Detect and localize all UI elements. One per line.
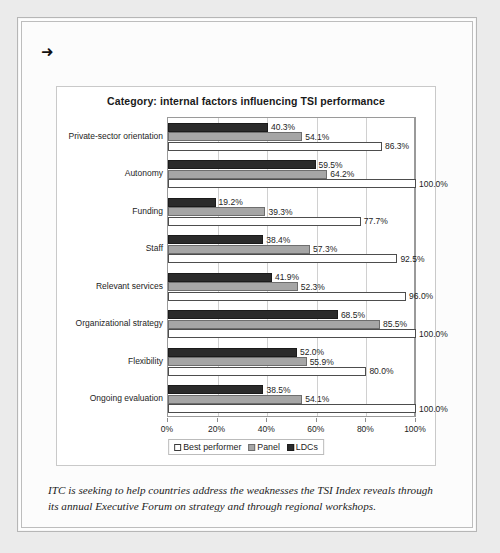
bar-ldcs: [168, 348, 297, 357]
bar-value-label: 100.0%: [419, 330, 448, 339]
gridline: [366, 118, 367, 416]
bar-best: [168, 404, 416, 413]
bar-value-label: 52.3%: [301, 283, 325, 292]
x-tick-mark: [316, 418, 317, 422]
bar-ldcs: [168, 123, 268, 132]
bar-value-label: 85.5%: [383, 320, 407, 329]
x-tick-mark: [217, 418, 218, 422]
category-label: Staff: [146, 243, 163, 253]
bar-ldcs: [168, 273, 272, 282]
axis-right-edge: [414, 118, 415, 416]
legend-swatch-panel: [248, 444, 255, 451]
bar-best: [168, 292, 406, 301]
bar-value-label: 64.2%: [330, 170, 354, 179]
category-label: Organizational strategy: [76, 318, 163, 328]
x-tick-mark: [415, 418, 416, 422]
x-tick-label: 40%: [258, 424, 275, 434]
category-label: Autonomy: [125, 168, 163, 178]
bar-value-label: 54.1%: [305, 133, 329, 142]
x-tick-mark: [365, 418, 366, 422]
legend-entry-ldcs: LDCs: [287, 442, 318, 452]
bar-ldcs: [168, 385, 263, 394]
bar-panel: [168, 207, 265, 216]
bar-panel: [168, 170, 327, 179]
x-tick-label: 100%: [404, 424, 426, 434]
legend-swatch-ldcs: [287, 444, 294, 451]
bar-value-label: 86.3%: [385, 142, 409, 151]
x-tick-label: 60%: [307, 424, 324, 434]
bar-best: [168, 367, 366, 376]
bar-value-label: 57.3%: [313, 245, 337, 254]
bar-ldcs: [168, 160, 316, 169]
bar-value-label: 40.3%: [271, 123, 295, 132]
x-tick-label: 0%: [161, 424, 173, 434]
bar-value-label: 55.9%: [310, 358, 334, 367]
legend-label-best-performer: Best performer: [183, 442, 241, 452]
legend-entry-best-performer: Best performer: [174, 442, 241, 452]
bar-value-label: 41.9%: [275, 273, 299, 282]
bar-ldcs: [168, 198, 216, 207]
bar-value-label: 100.0%: [419, 180, 448, 189]
bar-value-label: 92.5%: [400, 255, 424, 264]
bar-value-label: 68.5%: [341, 311, 365, 320]
bar-panel: [168, 245, 310, 254]
bar-value-label: 38.5%: [266, 386, 290, 395]
bar-panel: [168, 132, 302, 141]
x-tick-mark: [266, 418, 267, 422]
bar-value-label: 54.1%: [305, 395, 329, 404]
legend-swatch-best-performer: [174, 444, 181, 451]
bar-value-label: 38.4%: [266, 236, 290, 245]
bar-value-label: 77.7%: [364, 217, 388, 226]
bar-panel: [168, 357, 307, 366]
bar-value-label: 39.3%: [268, 208, 292, 217]
bar-value-label: 19.2%: [219, 198, 243, 207]
bar-value-label: 52.0%: [300, 348, 324, 357]
bar-value-label: 80.0%: [369, 367, 393, 376]
arrow-bullet-icon: ➜: [41, 45, 54, 60]
bar-best: [168, 179, 416, 188]
legend-label-ldcs: LDCs: [296, 442, 318, 452]
category-label: Flexibility: [128, 356, 163, 366]
bar-panel: [168, 320, 380, 329]
chart-panel: Category: internal factors influencing T…: [56, 86, 436, 466]
category-label: Private-sector orientation: [69, 131, 164, 141]
bar-ldcs: [168, 310, 338, 319]
bar-best: [168, 142, 382, 151]
bar-ldcs: [168, 235, 263, 244]
chart-title: Category: internal factors influencing T…: [57, 95, 435, 107]
bar-best: [168, 329, 416, 338]
bar-best: [168, 217, 361, 226]
chart-plot-area: 40.3%54.1%86.3%59.5%64.2%100.0%19.2%39.3…: [167, 117, 416, 417]
chart-legend: Best performerPanelLDCs: [168, 439, 324, 455]
bar-value-label: 96.0%: [409, 292, 433, 301]
document-card: ➜ Category: internal factors influencing…: [17, 17, 477, 532]
bar-value-label: 100.0%: [419, 405, 448, 414]
bar-panel: [168, 395, 302, 404]
x-tick-label: 80%: [357, 424, 374, 434]
x-tick-label: 20%: [208, 424, 225, 434]
legend-label-panel: Panel: [257, 442, 280, 452]
category-label: Ongoing evaluation: [90, 393, 163, 403]
category-label: Funding: [132, 206, 163, 216]
bar-best: [168, 254, 397, 263]
legend-entry-panel: Panel: [248, 442, 280, 452]
figure-caption: ITC is seeking to help countries address…: [48, 483, 446, 514]
x-tick-mark: [167, 418, 168, 422]
bar-panel: [168, 282, 298, 291]
category-label: Relevant services: [96, 281, 163, 291]
document-page: ➜ Category: internal factors influencing…: [0, 0, 500, 553]
